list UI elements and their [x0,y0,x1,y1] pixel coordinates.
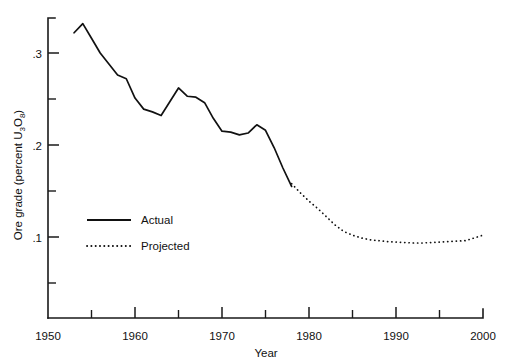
y-axis-title: Ore grade (percent U3O8) [12,110,27,241]
x-tick-label: 2000 [470,330,496,342]
y-axis-tick-labels: .1.2.3 [32,48,42,244]
y-axis: .1.2.3 [32,18,59,318]
y-axis-line [48,18,55,318]
x-tick-label: 1990 [383,330,409,342]
x-axis-tick-labels: 195019601970198019902000 [35,330,496,342]
ore-grade-line-chart: .1.2.3 195019601970198019902000 Year Ore… [0,0,512,364]
y-tick-label: .2 [32,140,42,152]
y-tick-label: .3 [32,48,42,60]
x-axis-minor-ticks [92,310,440,318]
y-tick-label: .1 [32,232,42,244]
x-tick-label: 1950 [35,330,61,342]
x-tick-label: 1970 [209,330,235,342]
x-tick-label: 1980 [296,330,322,342]
series-line-projected [292,184,483,243]
chart-canvas: .1.2.3 195019601970198019902000 Year Ore… [0,0,512,364]
x-tick-label: 1960 [122,330,148,342]
series-line-actual [74,24,292,187]
x-axis: 195019601970198019902000 [35,307,496,342]
legend-label-projected: Projected [141,240,190,252]
legend-label-actual: Actual [141,214,173,226]
x-axis-title: Year [254,347,277,359]
y-axis-minor-ticks [48,99,56,283]
legend: Actual Projected [87,214,190,252]
y-axis-major-ticks [48,53,59,237]
